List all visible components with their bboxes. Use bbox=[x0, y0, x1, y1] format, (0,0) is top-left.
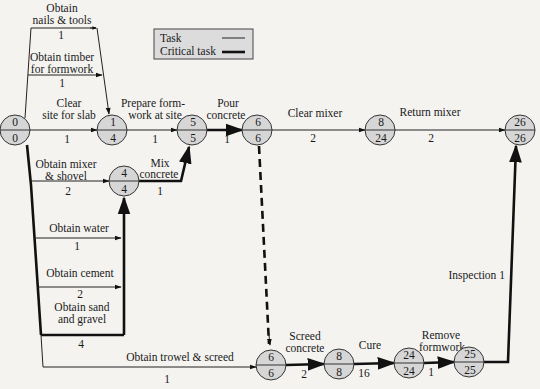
node-late-time: 6 bbox=[255, 132, 261, 144]
task-label: Pour bbox=[217, 97, 239, 109]
task-pour-concrete: Pour concrete 1 bbox=[207, 97, 246, 145]
task-label: & shovel bbox=[45, 170, 87, 182]
task-label: Clear bbox=[57, 97, 82, 109]
task-duration: 1 bbox=[58, 29, 64, 41]
node-late-time: 5 bbox=[190, 132, 196, 144]
task-label: site for slab bbox=[42, 109, 96, 121]
task-return-mixer: Return mixer 2 bbox=[395, 106, 505, 144]
node-1: 1 4 bbox=[97, 115, 127, 145]
task-label: Obtain timber bbox=[30, 51, 94, 63]
node-early-time: 8 bbox=[336, 350, 342, 362]
task-label: Obtain trowel & screed bbox=[126, 351, 234, 363]
dummy-dependency-dashed bbox=[259, 146, 269, 344]
task-label: and gravel bbox=[58, 313, 106, 326]
node-early-time: 1 bbox=[110, 116, 116, 128]
task-obtain-cement: Obtain cement 2 bbox=[37, 267, 121, 300]
task-duration: 2 bbox=[65, 185, 71, 197]
task-duration: 2 bbox=[301, 368, 307, 380]
node-5: 5 5 bbox=[177, 115, 207, 145]
task-cure: Cure 16 bbox=[354, 339, 394, 379]
task-label: Remove bbox=[422, 329, 460, 341]
task-duration: 1 bbox=[164, 373, 170, 385]
task-clear-site: Clear site for slab 1 bbox=[30, 97, 97, 145]
task-label: Clear mixer bbox=[288, 107, 343, 119]
task-label: concrete bbox=[140, 168, 179, 180]
node-early-time: 5 bbox=[190, 116, 196, 128]
task-label: for formwork bbox=[31, 63, 94, 75]
task-label: Obtain mixer bbox=[36, 158, 97, 170]
task-duration: 1 bbox=[59, 77, 65, 89]
task-duration: 1 bbox=[64, 133, 70, 145]
task-duration: 2 bbox=[310, 132, 316, 144]
task-screed-concrete: Screed concrete 2 bbox=[286, 330, 325, 380]
task-duration: 1 bbox=[428, 366, 434, 378]
node-early-time: 25 bbox=[464, 348, 476, 360]
critical-trunk bbox=[27, 145, 41, 335]
node-late-time: 6 bbox=[268, 367, 274, 379]
task-label: work at site bbox=[128, 109, 182, 121]
trunk-continuation bbox=[41, 335, 43, 367]
task-label: Cure bbox=[359, 339, 381, 351]
task-label: Obtain cement bbox=[46, 267, 114, 279]
node-early-time: 6 bbox=[255, 116, 261, 128]
task-mix-concrete: Mix concrete 1 bbox=[139, 147, 189, 197]
node-6-lower: 6 6 bbox=[256, 350, 286, 380]
node-4: 4 4 bbox=[109, 166, 139, 196]
task-duration: 2 bbox=[428, 132, 434, 144]
task-duration: 4 bbox=[78, 338, 84, 350]
node-late-time: 8 bbox=[336, 366, 342, 378]
task-label: Obtain sand bbox=[54, 301, 110, 313]
node-late-time: 25 bbox=[464, 364, 476, 376]
node-late-time: 26 bbox=[514, 132, 526, 144]
legend: Task Critical task bbox=[154, 29, 253, 59]
legend-critical-label: Critical task bbox=[160, 45, 216, 57]
task-duration: 1 bbox=[74, 240, 80, 252]
node-late-time: 24 bbox=[403, 365, 415, 377]
node-0: 0 0 bbox=[0, 115, 30, 145]
node-late-time: 0 bbox=[12, 132, 18, 144]
node-early-time: 6 bbox=[268, 351, 274, 363]
node-early-time: 4 bbox=[121, 167, 127, 179]
node-late-time: 24 bbox=[375, 132, 387, 144]
task-obtain-timber: Obtain timber for formwork 1 bbox=[28, 51, 102, 89]
task-obtain-mixer: Obtain mixer & shovel 2 bbox=[31, 158, 109, 197]
task-prepare-formwork: Prepare form- work at site 1 bbox=[121, 97, 185, 145]
node-8-upper: 8 24 bbox=[365, 115, 395, 145]
task-label: Obtain water bbox=[49, 222, 109, 234]
task-label: nails & tools bbox=[33, 14, 92, 26]
node-24: 24 24 bbox=[394, 348, 424, 378]
node-late-time: 4 bbox=[110, 132, 116, 144]
node-6-upper: 6 6 bbox=[242, 115, 272, 145]
task-obtain-water: Obtain water 1 bbox=[34, 222, 121, 252]
task-label: Obtain bbox=[46, 2, 78, 14]
node-early-time: 26 bbox=[514, 116, 526, 128]
critical-path-network-diagram: Task Critical task Obtain nails & tools … bbox=[0, 0, 540, 389]
task-label: concrete bbox=[286, 342, 325, 354]
task-duration: 1 bbox=[224, 133, 230, 145]
task-obtain-trowel-screed: Obtain trowel & screed 1 bbox=[43, 351, 256, 385]
node-26: 26 26 bbox=[505, 115, 535, 145]
node-late-time: 4 bbox=[121, 183, 127, 195]
task-duration: 16 bbox=[358, 367, 370, 379]
task-clear-mixer: Clear mixer 2 bbox=[272, 107, 365, 144]
task-label: Screed bbox=[289, 330, 321, 342]
task-duration: 2 bbox=[77, 288, 83, 300]
legend-task-label: Task bbox=[160, 32, 182, 44]
task-label: Inspection 1 bbox=[448, 269, 505, 282]
task-label: Return mixer bbox=[400, 106, 461, 118]
node-early-time: 24 bbox=[403, 349, 415, 361]
task-label: concrete bbox=[207, 109, 246, 121]
node-early-time: 8 bbox=[378, 116, 384, 128]
edge-nails-b bbox=[97, 28, 109, 114]
node-early-time: 0 bbox=[12, 116, 18, 128]
task-duration: 1 bbox=[157, 185, 163, 197]
node-8-lower: 8 8 bbox=[324, 349, 354, 379]
node-25: 25 25 bbox=[454, 347, 484, 377]
task-duration: 1 bbox=[152, 133, 158, 145]
task-obtain-sand-gravel: Obtain sand and gravel 4 bbox=[41, 301, 124, 350]
